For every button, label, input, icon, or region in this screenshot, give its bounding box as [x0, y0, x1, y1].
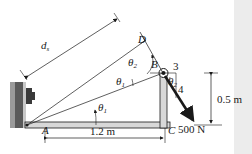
- label-d: D: [137, 33, 146, 45]
- label-theta2-top: θ2: [128, 56, 137, 70]
- label-slope-4: 4: [178, 83, 184, 95]
- statics-diagram: ds D B 3 4 A C θ2 θ1 θ1 θ2 0.5 m 1.2 m 5…: [0, 0, 252, 154]
- label-horizontal-dim: 1.2 m: [90, 125, 116, 137]
- label-b: B: [151, 58, 158, 70]
- label-force: 500 N: [178, 123, 205, 135]
- distance-ds-dimension: [20, 13, 120, 80]
- wall-support: [10, 82, 35, 128]
- label-vertical-dim: 0.5 m: [217, 93, 243, 105]
- label-theta1-top: θ1: [116, 75, 125, 89]
- line-a-d: [27, 40, 146, 125]
- label-c: C: [168, 124, 176, 136]
- label-a: A: [41, 124, 49, 136]
- label-ds: ds: [41, 39, 50, 53]
- line-a-b: [27, 73, 163, 125]
- label-theta1-bottom: θ1: [98, 101, 107, 115]
- label-slope-3: 3: [173, 60, 179, 72]
